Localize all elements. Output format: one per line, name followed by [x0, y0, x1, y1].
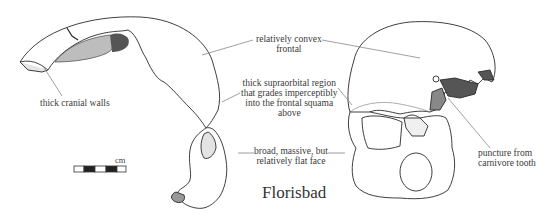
label-thick-cranial-walls: thick cranial walls [40, 98, 110, 108]
scale-bar [74, 166, 126, 172]
label-puncture-carnivore-tooth: puncture from carnivore tooth [478, 148, 536, 168]
frontal-view-skull [348, 22, 495, 199]
label-broad-flat-face: broad, massive, but relatively flat face [254, 146, 328, 166]
scale-bar-unit: cm [115, 155, 125, 165]
label-relatively-convex-frontal: relatively convex frontal [256, 34, 322, 54]
label-thick-supraorbital-region: thick supraorbital region that grades im… [241, 78, 338, 118]
figure-title: Florisbad [262, 183, 326, 203]
lateral-view-skull [20, 17, 227, 209]
